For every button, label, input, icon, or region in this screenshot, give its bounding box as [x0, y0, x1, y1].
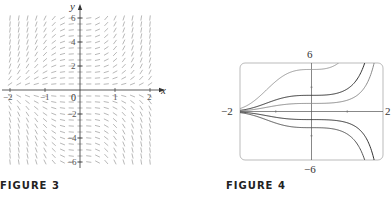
x-tick-label: −2	[3, 92, 13, 102]
y-tick-label: 6	[71, 13, 76, 23]
figure-4-caption: FIGURE 4	[226, 180, 286, 191]
fig4-right-label: 2	[385, 105, 391, 117]
x-tick-label: 2	[147, 92, 152, 102]
y-tick-label: 4	[71, 37, 76, 47]
fig4-left-label: −2	[221, 105, 233, 117]
fig4-top-label: 6	[307, 48, 313, 60]
x-axis-label: x	[161, 84, 166, 96]
x-tick-label: 0	[71, 92, 76, 103]
fig4-bottom-label: −6	[304, 163, 316, 175]
y-axis-label: y	[70, 0, 75, 12]
x-tick-label: 1	[113, 92, 118, 102]
y-tick-label: −4	[67, 133, 77, 143]
y-tick-label: −6	[67, 157, 77, 167]
figure-3-caption: FIGURE 3	[0, 180, 60, 191]
solution-curves-plot	[0, 0, 391, 180]
x-tick-label: −1	[40, 92, 50, 102]
y-tick-label: −2	[67, 109, 77, 119]
y-tick-label: 2	[71, 61, 76, 71]
